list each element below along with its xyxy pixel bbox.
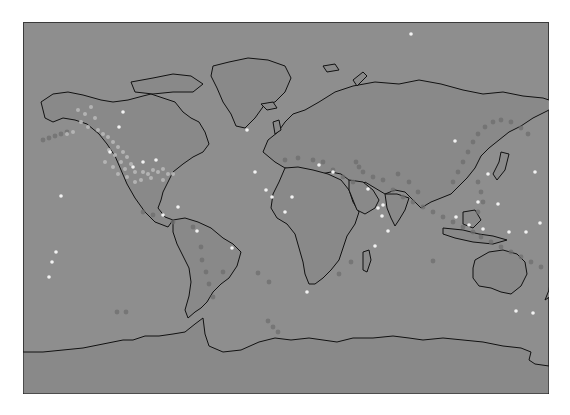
scatter-point-bright [373,244,377,248]
scatter-point-bright [195,229,199,233]
scatter-point-dark [461,225,466,230]
scatter-point-dark [471,230,476,235]
landmass-svalbard [323,64,339,72]
scatter-point-dark [221,270,226,275]
scatter-point-light [106,135,110,139]
scatter-point-dark [41,138,46,143]
scatter-point-dark [207,282,212,287]
scatter-point-light [151,168,155,172]
scatter-point-dark [421,205,426,210]
scatter-point-bright [386,229,390,233]
scatter-point-light [93,116,97,120]
scatter-point-light [156,170,160,174]
scatter-point-bright [481,227,485,231]
scatter-point-dark [441,215,446,220]
scatter-point-dark [311,158,316,163]
landmass-antarctica [23,318,549,394]
scatter-point-dark [171,220,176,225]
scatter-point-dark [499,245,504,250]
scatter-point-dark [526,132,531,137]
scatter-point-light [119,160,123,164]
scatter-point-light [65,132,69,136]
scatter-point-bright [486,172,490,176]
scatter-point-light [125,175,129,179]
scatter-point-bright [290,195,294,199]
scatter-point-dark [476,180,481,185]
scatter-point-dark [337,272,342,277]
scatter-point-dark [354,160,359,165]
scatter-point-light [83,112,87,116]
scatter-point-dark [351,180,356,185]
scatter-point-bright [514,309,518,313]
scatter-point-light [116,145,120,149]
scatter-point-dark [431,259,436,264]
landmass-japan [493,152,509,180]
scatter-point-dark [491,120,496,125]
scatter-point-dark [401,195,406,200]
scatter-point-light [103,160,107,164]
scatter-point-dark [191,225,196,230]
scatter-point-bright [59,194,63,198]
scatter-point-dark [529,260,534,265]
scatter-point-bright [305,290,309,294]
scatter-point-dark [431,210,436,215]
scatter-point-bright [161,213,165,217]
landmass-north-america [41,92,209,227]
scatter-point-light [89,105,93,109]
scatter-point-dark [53,134,58,139]
scatter-point-dark [483,125,488,130]
scatter-point-dark [476,210,481,215]
scatter-point-dark [519,255,524,260]
scatter-point-bright [141,160,145,164]
scatter-point-light [76,108,80,112]
scatter-point-dark [271,325,276,330]
scatter-point-bright [381,203,385,207]
scatter-point-dark [471,140,476,145]
landmass-iceland [261,102,277,110]
landmass-greenland [211,58,291,128]
scatter-point-bright [317,163,321,167]
scatter-point-bright [376,206,380,210]
scatter-point-dark [266,319,271,324]
scatter-point-dark [211,295,216,300]
scatter-point-bright [380,214,384,218]
scatter-point-light [111,140,115,144]
scatter-point-bright [409,32,413,36]
scatter-point-bright [253,170,257,174]
scatter-point-light [71,130,75,134]
scatter-point-dark [381,178,386,183]
scatter-point-dark [115,310,120,315]
scatter-point-bright [476,200,480,204]
scatter-point-dark [276,330,281,335]
scatter-point-dark [151,213,156,218]
scatter-point-dark [481,200,486,205]
scatter-point-dark [283,158,288,163]
scatter-point-dark [519,126,524,131]
scatter-point-bright [496,202,500,206]
scatter-point-light [171,172,175,176]
scatter-point-dark [59,132,64,137]
scatter-point-dark [349,260,354,265]
scatter-point-dark [499,118,504,123]
world-map[interactable] [23,22,549,394]
scatter-point-light [121,150,125,154]
scatter-point-bright [507,230,511,234]
scatter-point-bright [54,250,58,254]
scatter-point-dark [321,160,326,165]
scatter-point-light [133,180,137,184]
landmass-south-america [173,218,241,318]
scatter-point-dark [466,150,471,155]
scatter-point-dark [371,175,376,180]
scatter-point-light [161,167,165,171]
scatter-point-bright [245,128,249,132]
scatter-point-light [149,176,153,180]
scatter-point-bright [467,223,471,227]
scatter-point-light [141,170,145,174]
scatter-point-dark [451,180,456,185]
scatter-point-light [101,132,105,136]
scatter-point-bright [131,165,135,169]
scatter-point-dark [416,190,421,195]
scatter-point-bright [366,187,370,191]
scatter-point-light [161,178,165,182]
scatter-point-dark [396,172,401,177]
